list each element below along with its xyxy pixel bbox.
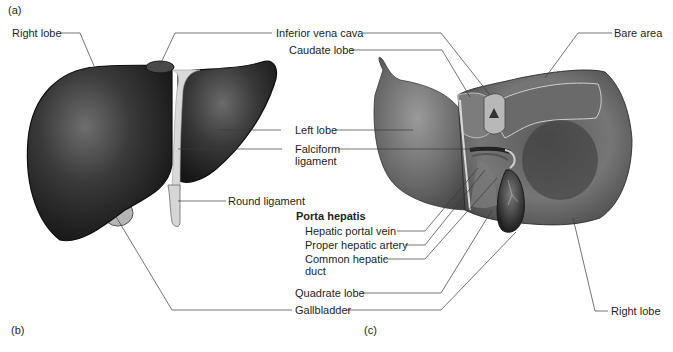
- ivc-anterior: [146, 61, 174, 73]
- label-common-hepatic-duct-line2: duct: [305, 265, 326, 277]
- round-ligament-anterior: [168, 185, 180, 227]
- label-left-lobe: Left lobe: [295, 124, 337, 136]
- label-porta-hepatis: Porta hepatis: [296, 210, 366, 222]
- left-lobe-posterior: [374, 57, 470, 210]
- panel-label-b: (b): [11, 324, 24, 336]
- label-caudate-lobe: Caudate lobe: [289, 44, 354, 56]
- label-gallbladder: Gallbladder: [295, 304, 351, 316]
- right-lobe-anterior: [27, 65, 172, 241]
- label-right-lobe-anterior: Right lobe: [12, 27, 62, 39]
- posterior-liver-drawing: [374, 57, 632, 232]
- renal-impression: [522, 120, 598, 200]
- label-falciform-ligament-line1: Falciform: [295, 143, 340, 155]
- label-hepatic-portal-vein: Hepatic portal vein: [305, 225, 396, 237]
- label-right-lobe-posterior: Right lobe: [611, 305, 661, 317]
- left-lobe-anterior: [178, 61, 277, 182]
- label-quadrate-lobe: Quadrate lobe: [295, 287, 365, 299]
- panel-label-c: (c): [364, 324, 377, 336]
- label-proper-hepatic-artery: Proper hepatic artery: [305, 239, 408, 251]
- label-common-hepatic-duct-line1: Common hepatic: [305, 253, 388, 265]
- anterior-liver-drawing: [27, 61, 276, 241]
- label-inferior-vena-cava: Inferior vena cava: [276, 27, 363, 39]
- panel-label-a: (a): [8, 4, 21, 16]
- liver-anatomy-figure: (a) (b) (c) Right lobe Round ligament In…: [0, 0, 673, 352]
- label-falciform-ligament-line2: ligament: [295, 155, 337, 167]
- label-round-ligament: Round ligament: [228, 195, 305, 207]
- label-bare-area: Bare area: [614, 27, 662, 39]
